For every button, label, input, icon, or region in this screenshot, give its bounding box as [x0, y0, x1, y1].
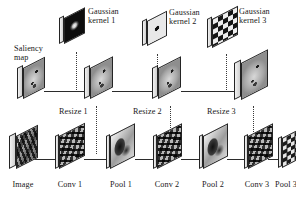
slab-face — [64, 7, 85, 44]
pool-3-slab[interactable] — [278, 138, 296, 168]
conv-2-texture — [158, 125, 181, 168]
slab-face — [212, 6, 238, 48]
slab-face — [59, 123, 85, 169]
saliency-map-2-slab[interactable] — [152, 68, 181, 99]
conv-1-slab[interactable] — [55, 136, 85, 169]
gaussian-kernel-2-slab[interactable] — [142, 21, 167, 46]
gaussian-kernel-3-slab[interactable] — [207, 19, 238, 48]
saliency-map-1-slab[interactable] — [84, 68, 113, 99]
resize-1-label: Resize 1 — [59, 107, 88, 116]
gaussian-kernel-1-label: Gaussian kernel 1 — [88, 7, 119, 25]
saliency-map-0-texture — [24, 58, 44, 97]
saliency-map-0-slab[interactable] — [17, 68, 45, 99]
slab-face — [282, 127, 296, 168]
slab-face — [157, 123, 182, 169]
saliency-connector-1 — [44, 91, 84, 92]
pool-1-texture — [111, 125, 134, 168]
pool-2-texture — [204, 125, 227, 168]
conv-2-label: Conv 2 — [148, 180, 186, 189]
pool-2-slab[interactable] — [199, 136, 228, 169]
conv-1-label: Conv 1 — [51, 180, 89, 189]
pool-1-slab[interactable] — [106, 136, 135, 169]
slab-face — [16, 125, 38, 169]
gaussian-kernel-2-label: Gaussian kernel 2 — [169, 8, 200, 26]
conv-2-slab[interactable] — [153, 136, 182, 169]
pool-1-label: Pool 1 — [102, 180, 140, 189]
image-label: Image — [5, 180, 41, 189]
image-texture — [17, 126, 37, 167]
slab-face — [110, 123, 135, 169]
slab-side — [234, 59, 241, 100]
slab-face — [147, 11, 167, 46]
resize-3-label: Resize 3 — [207, 107, 236, 116]
gaussian-kernel-3-label: Gaussian kernel 3 — [239, 7, 270, 25]
pool-3-texture — [283, 128, 296, 166]
slab-face — [90, 56, 113, 99]
slab-face — [203, 123, 228, 169]
saliency-map-1-texture — [91, 58, 112, 98]
gaussian-kernel-3-texture — [213, 7, 237, 46]
saliency-map-3-texture — [242, 51, 267, 99]
saliency-connector-3 — [181, 91, 235, 92]
pool-2-label: Pool 2 — [194, 180, 232, 189]
resize-2-label: Resize 2 — [133, 107, 162, 116]
kernel-1-dotted-connector — [76, 52, 77, 90]
saliency-connector-2 — [112, 91, 153, 92]
image-slab[interactable] — [9, 136, 38, 169]
kernel-3-dotted-connector — [226, 54, 227, 90]
slab-face — [241, 49, 268, 100]
diagram-canvas: Gaussian kernel 1 Gaussian kernel 2 Gaus… — [0, 0, 296, 205]
pool-3-label: Pool 3 — [271, 180, 296, 189]
saliency-map-3-slab[interactable] — [234, 63, 268, 100]
conv-1-texture — [60, 124, 84, 167]
slab-face — [158, 56, 181, 99]
slab-side — [9, 132, 16, 169]
gaussian-kernel-1-slab[interactable] — [59, 18, 85, 44]
slab-face — [23, 57, 45, 99]
gaussian-kernel-1-texture — [65, 9, 84, 43]
gaussian-kernel-2-texture — [148, 12, 166, 44]
saliency-map-2-texture — [159, 58, 180, 98]
slab-face — [248, 123, 273, 169]
conv-3-slab[interactable] — [244, 136, 273, 169]
resize-1-dotted-connector — [96, 106, 97, 154]
